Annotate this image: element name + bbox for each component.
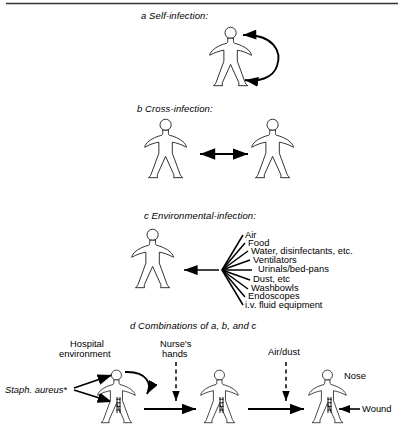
person-figure-d-3 (309, 370, 347, 423)
panel-d-combinations: d Combinations of a, b, and c Hospital e… (5, 320, 392, 423)
panel-b-label: b Cross-infection: (137, 103, 213, 114)
panel-a-self-infection: a Self-infection: (141, 10, 278, 86)
person-figure-a (210, 27, 252, 85)
staph-arrow-upper (74, 375, 112, 388)
panel-c-environmental-infection: c Environmental-infection: Air Food Wate… (132, 210, 353, 310)
panel-d-label: d Combinations of a, b, and c (130, 320, 257, 331)
person-figure-b-left (145, 119, 187, 177)
figure-canvas: a Self-infection: b Cross-infection: c E… (0, 0, 404, 433)
person-figure-b-right (252, 119, 294, 177)
annotation-air-dust: Air/dust (268, 346, 300, 357)
panel-c-label: c Environmental-infection: (144, 210, 256, 221)
person-figure-c (132, 229, 174, 287)
staph-aureus-label: Staph. aureus* (5, 384, 67, 395)
self-infection-loop-arrow (243, 35, 278, 81)
panel-b-cross-infection: b Cross-infection: (137, 103, 293, 178)
environmental-source-iv-fluid: i.v. fluid equipment (245, 299, 323, 310)
infection-routes-figure: a Self-infection: b Cross-infection: c E… (0, 0, 404, 433)
person-figure-d-2 (201, 370, 239, 423)
annotation-nurses-line2: hands (162, 348, 188, 359)
annotation-hospital-line2: environment (59, 348, 111, 359)
panel-a-label: a Self-infection: (141, 10, 208, 21)
label-wound: Wound (362, 403, 392, 414)
label-nose: Nose (344, 370, 366, 381)
